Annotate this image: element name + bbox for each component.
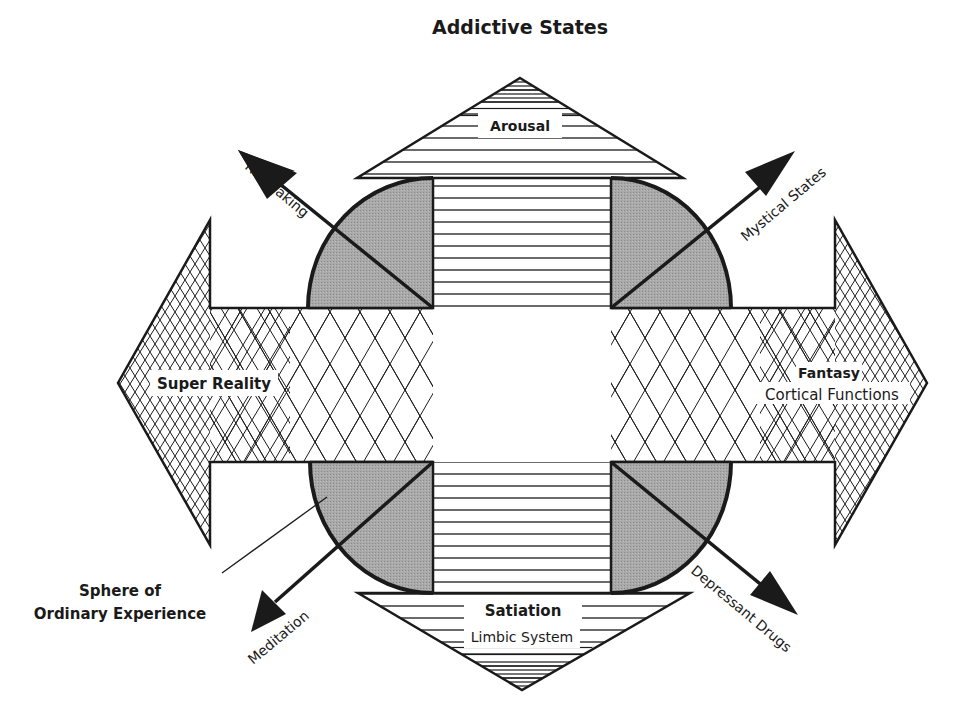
- addictive-states-diagram: Addictive States Arousal Satiation Limbi…: [0, 0, 972, 726]
- sphere-label-line2: Ordinary Experience: [34, 605, 207, 623]
- corner-top-right: [611, 178, 731, 308]
- super-reality-label: Super Reality: [157, 375, 271, 393]
- corner-top-left: [308, 178, 433, 308]
- limbic-system-label: Limbic System: [471, 629, 573, 645]
- satiation-label: Satiation: [485, 602, 562, 620]
- fantasy-label: Fantasy: [798, 365, 860, 381]
- diagram-title: Addictive States: [432, 16, 608, 38]
- arousal-label: Arousal: [490, 118, 550, 134]
- callout-leader-line: [222, 497, 327, 573]
- cortical-functions-label: Cortical Functions: [765, 386, 899, 404]
- center-void: [433, 308, 611, 462]
- depressant-drugs-label: Depressant Drugs: [688, 562, 795, 655]
- arrowhead-icon: [750, 571, 798, 615]
- sphere-label-line1: Sphere of: [79, 582, 161, 600]
- corner-bottom-left: [310, 462, 433, 593]
